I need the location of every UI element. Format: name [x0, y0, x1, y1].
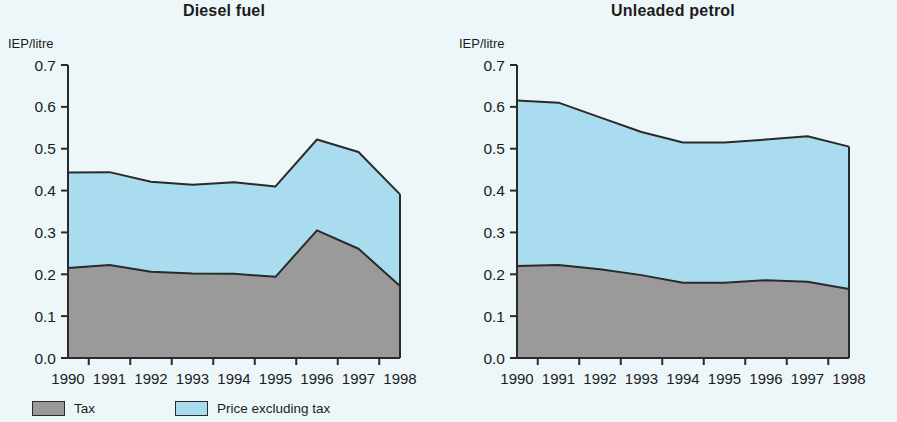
y-axis-tick-label: 0.6: [34, 98, 56, 115]
y-axis-tick-label: 0.5: [483, 140, 505, 157]
plot-svg-unleaded: 0.00.10.20.30.40.50.60.71990199119921993…: [449, 0, 897, 385]
legend-label-tax: Tax: [74, 401, 95, 416]
x-axis-tick-label: 1997: [342, 370, 375, 385]
figure-area-charts-fuel-prices: Diesel fuel IEP/litre 0.00.10.20.30.40.5…: [0, 0, 897, 422]
y-axis-tick-label: 0.3: [34, 224, 56, 241]
y-axis-tick-label: 0.4: [34, 182, 56, 199]
x-axis-tick-label: 1991: [93, 370, 126, 385]
x-axis-tick-label: 1998: [383, 370, 416, 385]
x-axis-tick-label: 1993: [176, 370, 209, 385]
x-axis-tick-label: 1996: [749, 370, 782, 385]
x-axis-tick-label: 1990: [500, 370, 533, 385]
chart-panels: Diesel fuel IEP/litre 0.00.10.20.30.40.5…: [0, 0, 897, 385]
x-axis-tick-label: 1992: [134, 370, 167, 385]
x-axis-tick-label: 1992: [583, 370, 616, 385]
y-axis-tick-label: 0.7: [483, 57, 505, 74]
x-axis-tick-label: 1990: [51, 370, 84, 385]
y-axis-tick-label: 0.0: [34, 350, 56, 367]
legend-item-tax: Tax: [32, 401, 95, 416]
x-axis-tick-label: 1994: [666, 370, 699, 385]
y-axis-tick-label: 0.3: [483, 224, 505, 241]
plot-svg-diesel: 0.00.10.20.30.40.50.60.71990199119921993…: [0, 0, 448, 385]
y-axis-tick-label: 0.2: [34, 266, 56, 283]
y-axis-tick-label: 0.2: [483, 266, 505, 283]
x-axis-tick-label: 1991: [542, 370, 575, 385]
x-axis-tick-label: 1995: [708, 370, 741, 385]
y-axis-tick-label: 0.5: [34, 140, 56, 157]
legend-swatch-tax: [32, 401, 65, 416]
x-axis-tick-label: 1996: [300, 370, 333, 385]
x-axis-tick-label: 1995: [259, 370, 292, 385]
legend-item-price-excluding-tax: Price excluding tax: [175, 401, 330, 416]
x-axis-tick-label: 1994: [217, 370, 250, 385]
area-price-excluding-tax: [517, 101, 849, 289]
y-axis-tick-label: 0.6: [483, 98, 505, 115]
chart-panel-unleaded-petrol: Unleaded petrol IEP/litre 0.00.10.20.30.…: [449, 0, 897, 385]
chart-legend: Tax Price excluding tax: [0, 385, 897, 422]
y-axis-tick-label: 0.1: [34, 308, 56, 325]
x-axis-tick-label: 1997: [791, 370, 824, 385]
x-axis-tick-label: 1993: [625, 370, 658, 385]
y-axis-tick-label: 0.7: [34, 57, 56, 74]
legend-swatch-price-excluding-tax: [175, 401, 208, 416]
y-axis-tick-label: 0.1: [483, 308, 505, 325]
y-axis-tick-label: 0.0: [483, 350, 505, 367]
legend-label-price-excluding-tax: Price excluding tax: [217, 401, 330, 416]
y-axis-tick-label: 0.4: [483, 182, 505, 199]
x-axis-tick-label: 1998: [832, 370, 865, 385]
chart-panel-diesel-fuel: Diesel fuel IEP/litre 0.00.10.20.30.40.5…: [0, 0, 448, 385]
